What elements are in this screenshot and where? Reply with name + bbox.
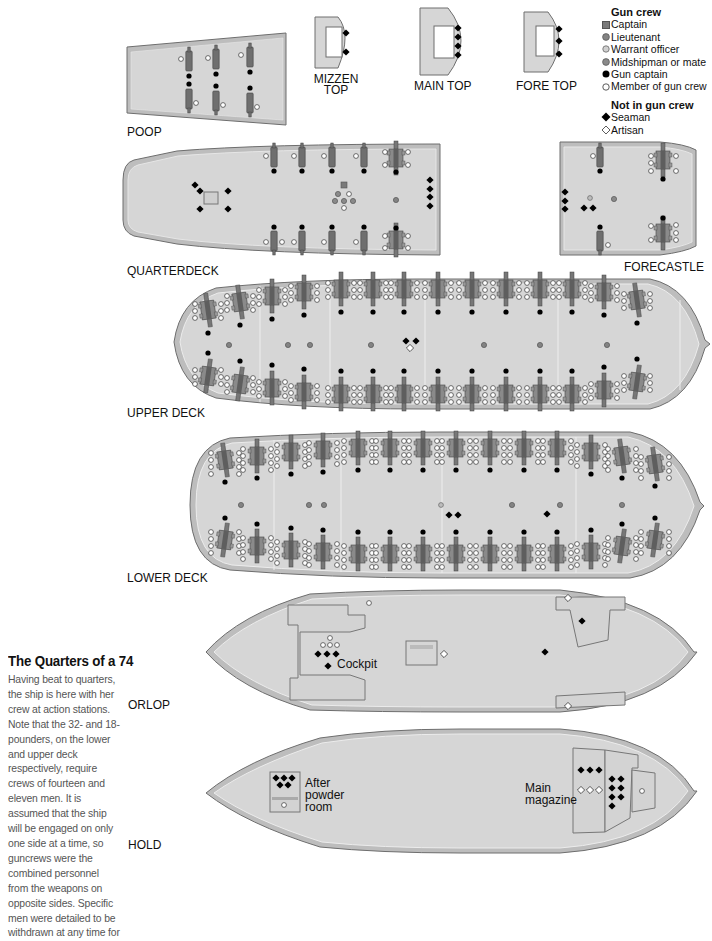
crew-marker-white xyxy=(193,302,198,307)
crew-marker-white xyxy=(667,551,672,556)
legend-label: Warrant officer xyxy=(611,43,679,55)
fore-top-label: FORE TOP xyxy=(516,79,577,93)
quarterdeck-label: QUARTERDECK xyxy=(127,264,219,278)
crew-marker-white xyxy=(525,386,530,391)
circle-white-icon xyxy=(601,83,611,91)
crew-marker-white xyxy=(474,565,479,570)
crew-marker-white xyxy=(352,281,357,286)
crew-marker-black xyxy=(355,529,360,534)
crew-marker-white xyxy=(569,558,574,563)
crew-marker-white xyxy=(575,542,580,547)
crew-marker-black xyxy=(299,168,304,173)
crew-marker-white xyxy=(615,284,620,289)
crew-marker-white xyxy=(415,393,420,398)
crew-marker-black xyxy=(554,529,559,534)
crew-marker-black xyxy=(435,368,440,373)
crew-marker-white xyxy=(639,537,644,542)
crew-marker-white xyxy=(502,565,507,570)
legend-label: Artisan xyxy=(611,124,644,136)
crew-marker-white xyxy=(525,393,530,398)
crew-marker-black xyxy=(361,168,366,173)
crew-marker-white xyxy=(517,400,522,405)
crew-marker-white xyxy=(583,288,588,293)
crew-marker-white xyxy=(508,453,513,458)
crew-marker-black xyxy=(370,309,375,314)
crew-marker-white xyxy=(639,544,644,549)
crew-marker-white xyxy=(440,558,445,563)
crew-marker-white xyxy=(193,316,198,321)
crew-marker-white xyxy=(569,446,574,451)
crew-marker-white xyxy=(219,309,224,314)
crew-marker-white xyxy=(292,154,297,159)
main-top-label: MAIN TOP xyxy=(414,79,472,93)
crew-marker-white xyxy=(239,53,244,58)
crew-marker-black xyxy=(601,312,606,317)
crew-marker-white xyxy=(634,536,639,541)
crew-marker-white xyxy=(289,291,294,296)
crew-marker-white xyxy=(219,368,224,373)
crew-marker-white xyxy=(457,386,462,391)
crew-marker-white xyxy=(415,281,420,286)
crew-marker-white xyxy=(468,460,473,465)
crew-marker-white xyxy=(307,556,312,561)
crew-marker-white xyxy=(269,557,274,562)
crew-marker-white xyxy=(358,281,363,286)
crew-marker-white xyxy=(508,565,513,570)
crew-marker-white xyxy=(440,565,445,570)
crew-marker-white xyxy=(575,549,580,554)
crew-marker-white xyxy=(575,443,580,448)
legend-label: Captain xyxy=(611,18,647,30)
crew-marker-white xyxy=(569,544,574,549)
crew-marker-white xyxy=(423,281,428,286)
crew-marker-white xyxy=(322,240,327,245)
crew-marker-black xyxy=(634,320,639,325)
crew-marker-black xyxy=(301,312,306,317)
crew-marker-white xyxy=(407,551,412,556)
crew-marker-black xyxy=(569,368,574,373)
crew-marker-white xyxy=(457,400,462,405)
legend-item-midshipman: Midshipman or mate xyxy=(601,56,707,68)
crew-marker-white xyxy=(342,565,347,570)
crew-marker-black xyxy=(288,525,293,530)
crew-marker-black xyxy=(288,471,293,476)
crew-marker-black xyxy=(269,316,274,321)
crew-marker-white xyxy=(269,447,274,452)
crew-marker-white xyxy=(536,453,541,458)
crew-marker-black xyxy=(299,224,304,229)
crew-marker-white xyxy=(374,446,379,451)
crew-marker-white xyxy=(269,536,274,541)
crew-marker-white xyxy=(307,563,312,568)
crew-marker-white xyxy=(468,453,473,458)
cockpit-label: Cockpit xyxy=(337,657,377,671)
crew-marker-white xyxy=(402,551,407,556)
crew-marker-white xyxy=(342,558,347,563)
capstan-icon xyxy=(204,192,218,204)
crew-marker-white xyxy=(342,453,347,458)
crew-marker-white xyxy=(283,302,288,307)
crew-marker-white xyxy=(583,386,588,391)
crew-marker-white xyxy=(342,544,347,549)
crew-marker-white xyxy=(407,565,412,570)
crew-marker-white xyxy=(193,382,198,387)
crew-marker-white xyxy=(474,558,479,563)
crew-marker-white xyxy=(517,281,522,286)
crew-marker-black xyxy=(247,85,252,90)
crew-marker-white xyxy=(389,386,394,391)
crew-marker-black xyxy=(487,529,492,534)
crew-marker-white xyxy=(615,382,620,387)
crew-marker-white xyxy=(435,460,440,465)
crew-marker-white xyxy=(241,461,246,466)
crew-marker-white xyxy=(307,549,312,554)
crew-marker-white xyxy=(435,453,440,458)
hold-deck xyxy=(206,729,697,853)
crew-marker-white xyxy=(225,308,230,313)
crew-marker-white xyxy=(541,565,546,570)
crew-marker-white xyxy=(384,288,389,293)
legend-label: Gun captain xyxy=(611,68,668,80)
crew-marker-white xyxy=(269,468,274,473)
crew-marker-gray xyxy=(481,342,486,347)
legend-item-warrant-officer: Warrant officer xyxy=(601,43,707,55)
crew-marker-white xyxy=(435,439,440,444)
crew-marker-black xyxy=(254,521,259,526)
crew-marker-black xyxy=(387,529,392,534)
